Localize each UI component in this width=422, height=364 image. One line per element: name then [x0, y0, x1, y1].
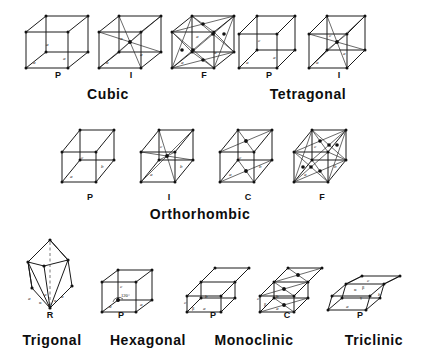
sublabel-triclinic-p: P: [345, 310, 375, 320]
axis-label-b: b: [334, 164, 337, 169]
sublabel-cubic-p: P: [43, 70, 73, 80]
axis-label-c: c: [81, 155, 84, 160]
axis-label-c: c: [239, 155, 242, 160]
base-center-node: [244, 169, 248, 173]
axis-label-a: a: [70, 174, 73, 179]
axis-label-a: a: [316, 60, 319, 65]
angle-label-alpha: α: [354, 287, 357, 292]
face-center-node: [335, 143, 339, 147]
axis-label-a: a: [246, 60, 249, 65]
unit-cell-tetragonal-p: c a a: [235, 12, 305, 74]
sublabel-cubic-i: I: [116, 70, 146, 80]
base-center-node: [282, 287, 286, 291]
angle-label-beta: β: [192, 306, 195, 311]
axis-label-a: a: [44, 292, 47, 297]
axis-label-c: c: [120, 284, 123, 289]
axis-label-a: a: [181, 60, 184, 65]
face-center-node: [301, 165, 305, 169]
angle-label-beta: β: [362, 285, 365, 290]
axis-label-c: c: [258, 38, 261, 43]
sublabel-ortho-c: C: [233, 192, 263, 202]
face-center-node: [318, 169, 322, 173]
face-center-node: [211, 32, 215, 36]
face-center-node: [180, 48, 184, 52]
unit-cell-cubic-p: a a a: [22, 12, 94, 74]
sublabel-cubic-f: F: [189, 70, 219, 80]
unit-cell-cubic-i: a a a: [95, 12, 167, 74]
axis-label-c: c: [160, 144, 163, 149]
axis-label-a: a: [196, 34, 199, 39]
axis-label-b: b: [180, 164, 183, 169]
axis-label-a: a: [120, 36, 123, 41]
angle-label-alpha: α: [54, 298, 57, 303]
body-center-node: [165, 154, 169, 158]
unit-cell-orthorhombic-i: c b a: [137, 126, 203, 186]
body-center-node: [128, 40, 132, 44]
sublabel-monoclinic-c: C: [272, 310, 302, 320]
unit-cell-cubic-f: a a a: [168, 12, 240, 74]
unit-cell-orthorhombic-p: c b a: [58, 126, 124, 186]
sublabel-monoclinic-p: P: [198, 310, 228, 320]
sublabel-ortho-i: I: [154, 192, 184, 202]
axis-label-a: a: [63, 56, 66, 61]
sublabel-tetragonal-i: I: [324, 70, 354, 80]
axis-label-a: a: [46, 42, 49, 47]
base-center-node: [244, 139, 248, 143]
axis-label-a: a: [273, 55, 276, 60]
axis-label-a: a: [28, 296, 31, 301]
axis-label-a: a: [140, 302, 143, 307]
unit-cell-orthorhombic-c: c b a: [216, 126, 282, 186]
face-center-node: [201, 58, 205, 62]
base-center-node: [282, 303, 286, 307]
axis-label-c: c: [314, 144, 317, 149]
system-heading-tetragonal: Tetragonal: [228, 86, 388, 102]
face-center-node: [191, 48, 195, 52]
sublabel-hexagonal-p: P: [106, 310, 136, 320]
unit-cell-orthorhombic-f: c b a: [290, 126, 356, 186]
angle-label-beta: β: [264, 302, 267, 307]
body-center-node: [335, 40, 339, 44]
face-center-node: [309, 165, 313, 169]
angle-label-gamma: γ: [360, 295, 362, 300]
axis-label-b: b: [101, 164, 104, 169]
sublabel-tetragonal-p: P: [254, 70, 284, 80]
sublabel-ortho-p: P: [75, 192, 105, 202]
base-center-node: [296, 273, 300, 277]
system-heading-monoclinic: Monoclinic: [188, 332, 320, 348]
sublabel-ortho-f: F: [307, 192, 337, 202]
system-heading-triclinic: Triclinic: [322, 332, 422, 348]
face-center-node: [201, 22, 205, 26]
axis-label-a: a: [229, 172, 232, 177]
sublabel-trigonal-r: R: [35, 310, 65, 320]
bravais-lattice-figure: a a a P a a a I: [0, 0, 422, 364]
axis-label-a: a: [150, 172, 153, 177]
face-center-node: [222, 32, 226, 36]
face-center-node: [318, 139, 322, 143]
axis-label-a: a: [346, 304, 349, 309]
axis-label-a: a: [343, 51, 346, 56]
angle-label-120: 120°: [121, 293, 130, 298]
system-heading-cubic: Cubic: [38, 86, 178, 102]
axis-label-a: a: [304, 172, 307, 177]
axis-label-c: c: [367, 278, 370, 283]
axis-label-a: a: [140, 52, 143, 57]
angle-label-alpha: α: [39, 300, 42, 305]
face-center-node: [327, 143, 331, 147]
system-heading-orthorhombic: Orthorhombic: [110, 206, 290, 222]
unit-cell-tetragonal-i: c a a: [305, 12, 375, 74]
system-heading-trigonal: Trigonal: [4, 332, 100, 348]
